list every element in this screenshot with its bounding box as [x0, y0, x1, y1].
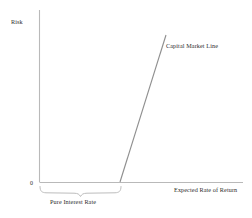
- pure-interest-rate-label: Pure Interest Rate: [50, 199, 96, 206]
- capital-market-line-chart: Risk Capital Market Line Expected Rate o…: [0, 0, 252, 218]
- capital-market-line-label: Capital Market Line: [166, 43, 218, 50]
- origin-label: 0: [30, 180, 33, 187]
- capital-market-line-plot: [120, 35, 166, 182]
- y-axis-label: Risk: [11, 19, 23, 26]
- x-axis-label: Expected Rate of Return: [174, 187, 237, 194]
- pure-interest-rate-brace-icon: [40, 187, 121, 197]
